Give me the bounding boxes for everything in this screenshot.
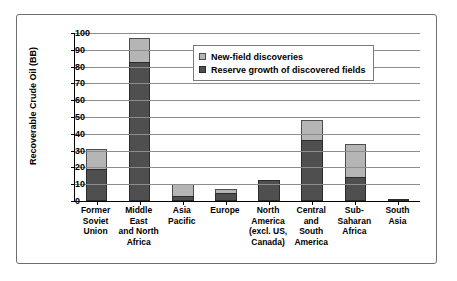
bar-segment-new-field [86, 149, 108, 169]
x-axis-category-label-line: Asia [377, 216, 418, 227]
x-axis-category-label-line: Saharan [334, 216, 375, 227]
x-axis-category-label-line: Africa [118, 237, 159, 248]
stacked-bar[interactable] [86, 149, 108, 201]
y-axis-title: Recoverable Crude Oil (BB) [28, 26, 38, 186]
x-axis-category-label: FormerSovietUnion [74, 205, 117, 247]
stacked-bar[interactable] [172, 184, 194, 201]
x-axis-labels: FormerSovietUnionMiddleEastand NorthAfri… [74, 205, 419, 247]
bar-segment-new-field [301, 120, 323, 140]
gridline [75, 83, 420, 84]
x-axis-category-label-line: South [291, 226, 332, 237]
x-axis-category-label: NorthAmerica(excl. US,Canada) [247, 205, 290, 247]
gridline [75, 151, 420, 152]
x-axis-category-label-line: and [291, 216, 332, 227]
legend-label-reserve-growth: Reserve growth of discovered fields [211, 65, 366, 75]
x-axis-category-label: CentralandSouthAmerica [290, 205, 333, 247]
stacked-bar-chart: Recoverable Crude Oil (BB) 1009080706050… [17, 15, 438, 265]
legend-item-reserve-growth: Reserve growth of discovered fields [199, 63, 366, 76]
bar-segment-reserve-growth [345, 177, 367, 201]
bar-segment-new-field [172, 184, 194, 196]
x-axis-category-label: SouthAsia [376, 205, 419, 247]
bar-segment-reserve-growth [215, 193, 237, 201]
x-axis-category-label-line: Former [75, 205, 116, 216]
x-axis-category-label: MiddleEastand NorthAfrica [117, 205, 160, 247]
x-axis-category-label: AsiaPacific [160, 205, 203, 247]
x-axis-category-label-line: Soviet [75, 216, 116, 227]
legend-label-new-field: New-field discoveries [211, 52, 303, 62]
stacked-bar[interactable] [345, 144, 367, 201]
chart-frame: Recoverable Crude Oil (BB) 1009080706050… [16, 14, 437, 264]
legend-swatch-new-field-icon [199, 53, 206, 60]
stacked-bar[interactable] [301, 120, 323, 201]
bar-segment-reserve-growth [301, 140, 323, 201]
gridline [75, 167, 420, 168]
chart-legend: New-field discoveries Reserve growth of … [193, 45, 374, 81]
x-axis-category-label-line: South [377, 205, 418, 216]
stacked-bar[interactable] [129, 38, 151, 201]
x-axis-category-label: Sub-SaharanAfrica [333, 205, 376, 247]
x-axis-category-label-line: and North [118, 226, 159, 237]
x-axis-category-label-line: America [248, 216, 289, 227]
gridline [75, 100, 420, 101]
x-axis-category-label-line: North [248, 205, 289, 216]
gridline [75, 117, 420, 118]
x-axis-category-label-line: Middle [118, 205, 159, 216]
x-axis-category-label-line: Asia [161, 205, 202, 216]
x-axis-category-label-line: Union [75, 226, 116, 237]
x-axis-category-label-line: (excl. US, [248, 226, 289, 237]
x-axis-category-label-line: East [118, 216, 159, 227]
gridline [75, 33, 420, 34]
x-axis-category-label-line: America [291, 237, 332, 248]
stacked-bar[interactable] [215, 189, 237, 201]
x-axis-category-label-line: Pacific [161, 216, 202, 227]
bar-segment-new-field [345, 144, 367, 178]
x-axis-category-label-line: Canada) [248, 237, 289, 248]
x-axis-category-label-line: Europe [204, 205, 245, 216]
gridline [75, 134, 420, 135]
bar-segment-reserve-growth [258, 180, 280, 201]
x-axis-category-label-line: Africa [334, 226, 375, 237]
x-axis-category-label: Europe [203, 205, 246, 247]
gridline [75, 184, 420, 185]
x-axis-category-label-line: Sub- [334, 205, 375, 216]
x-axis-category-label-line: Central [291, 205, 332, 216]
legend-swatch-reserve-growth-icon [199, 66, 206, 73]
legend-item-new-field: New-field discoveries [199, 50, 366, 63]
stacked-bar[interactable] [258, 180, 280, 201]
